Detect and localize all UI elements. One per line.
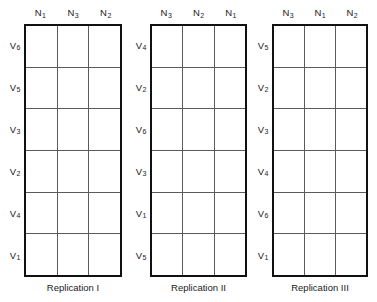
row-header-subscript: 2 xyxy=(264,86,268,93)
row-header-letter: V xyxy=(10,250,16,261)
plot-cell[interactable] xyxy=(183,109,214,150)
plot-cell[interactable] xyxy=(183,234,214,275)
plot-row xyxy=(152,234,245,275)
column-header-subscript: 2 xyxy=(107,12,111,19)
plot-row xyxy=(274,234,366,275)
row-header-subscript: 4 xyxy=(142,44,146,51)
plot-cell[interactable] xyxy=(183,26,214,67)
row-header-letter: V xyxy=(258,250,264,261)
plot-cell[interactable] xyxy=(215,109,245,150)
plot-cell[interactable] xyxy=(89,193,120,234)
plot-row xyxy=(26,193,120,235)
row-header-letter: V xyxy=(136,82,142,93)
plot-cell[interactable] xyxy=(305,234,336,275)
plot-cell[interactable] xyxy=(336,193,366,234)
plot-cell[interactable] xyxy=(26,26,58,67)
plot-cell[interactable] xyxy=(336,234,366,275)
plot-cell[interactable] xyxy=(336,26,366,67)
row-header-letter: V xyxy=(136,250,142,261)
plot-cell[interactable] xyxy=(274,68,305,109)
plot-cell[interactable] xyxy=(58,26,90,67)
plot-cell[interactable] xyxy=(58,151,90,192)
plot-cell[interactable] xyxy=(89,26,120,67)
plot-cell[interactable] xyxy=(89,234,120,275)
plot-cell[interactable] xyxy=(26,109,58,150)
plot-cell[interactable] xyxy=(58,234,90,275)
column-header-label: N1 xyxy=(304,4,336,22)
plot-cell[interactable] xyxy=(152,193,183,234)
plot-cell[interactable] xyxy=(274,26,305,67)
plot-cell[interactable] xyxy=(58,68,90,109)
plot-cell[interactable] xyxy=(58,109,90,150)
row-header-subscript: 4 xyxy=(16,212,20,219)
plot-cell[interactable] xyxy=(26,193,58,234)
plot-cell[interactable] xyxy=(274,109,305,150)
row-header-letter: V xyxy=(10,124,16,135)
plot-cell[interactable] xyxy=(26,68,58,109)
row-label-column-replication-3: V5V2V3V4V6V1 xyxy=(250,24,272,277)
block-caption: Replication III xyxy=(272,280,368,296)
plot-cell[interactable] xyxy=(274,193,305,234)
plot-cell[interactable] xyxy=(305,26,336,67)
row-header-label: V5 xyxy=(128,235,150,277)
row-header-label: V1 xyxy=(250,235,272,277)
row-header-label: V6 xyxy=(250,193,272,235)
plot-cell[interactable] xyxy=(215,151,245,192)
row-header-subscript: 5 xyxy=(142,254,146,261)
plot-row xyxy=(26,26,120,68)
plot-cell[interactable] xyxy=(183,68,214,109)
row-header-label: V3 xyxy=(2,108,24,150)
column-header-subscript: 1 xyxy=(233,12,237,19)
plot-cell[interactable] xyxy=(152,68,183,109)
plot-cell[interactable] xyxy=(89,109,120,150)
plot-cell[interactable] xyxy=(89,68,120,109)
plot-cell[interactable] xyxy=(305,109,336,150)
plot-cell[interactable] xyxy=(215,26,245,67)
block-caption: Replication I xyxy=(24,280,122,296)
plot-cell[interactable] xyxy=(274,151,305,192)
plot-cell[interactable] xyxy=(336,151,366,192)
plot-cell[interactable] xyxy=(336,68,366,109)
row-header-letter: V xyxy=(258,40,264,51)
plot-cell[interactable] xyxy=(26,151,58,192)
row-header-letter: V xyxy=(258,166,264,177)
plot-row xyxy=(274,26,366,68)
column-header-letter: N xyxy=(193,7,200,18)
plot-grid-replication-1 xyxy=(24,24,122,277)
plot-cell[interactable] xyxy=(26,234,58,275)
row-label-column-replication-1: V6V5V3V2V4V1 xyxy=(2,24,24,277)
plot-cell[interactable] xyxy=(336,109,366,150)
plot-cell[interactable] xyxy=(305,151,336,192)
row-header-subscript: 1 xyxy=(264,254,268,261)
row-header-subscript: 3 xyxy=(16,128,20,135)
plot-cell[interactable] xyxy=(274,234,305,275)
plot-cell[interactable] xyxy=(152,234,183,275)
row-header-subscript: 5 xyxy=(264,44,268,51)
plot-cell[interactable] xyxy=(183,151,214,192)
plot-row xyxy=(152,26,245,68)
plot-cell[interactable] xyxy=(215,68,245,109)
row-header-label: V1 xyxy=(2,235,24,277)
block-caption: Replication II xyxy=(150,280,247,296)
column-header-label: N1 xyxy=(215,4,247,22)
plot-cell[interactable] xyxy=(152,109,183,150)
column-header-letter: N xyxy=(161,7,168,18)
row-header-label: V2 xyxy=(2,151,24,193)
column-header-letter: N xyxy=(282,7,289,18)
row-header-label: V2 xyxy=(250,66,272,108)
column-header-row-replication-2: N3N2N1 xyxy=(150,4,247,22)
plot-cell[interactable] xyxy=(305,68,336,109)
plot-cell[interactable] xyxy=(152,26,183,67)
row-header-label: V6 xyxy=(2,24,24,66)
plot-cell[interactable] xyxy=(305,193,336,234)
plot-cell[interactable] xyxy=(183,193,214,234)
plot-grid-replication-2 xyxy=(150,24,247,277)
plot-cell[interactable] xyxy=(215,234,245,275)
column-header-letter: N xyxy=(346,7,353,18)
plot-cell[interactable] xyxy=(215,193,245,234)
plot-cell[interactable] xyxy=(152,151,183,192)
row-header-letter: V xyxy=(10,208,16,219)
plot-cell[interactable] xyxy=(89,151,120,192)
row-header-letter: V xyxy=(136,208,142,219)
plot-cell[interactable] xyxy=(58,193,90,234)
